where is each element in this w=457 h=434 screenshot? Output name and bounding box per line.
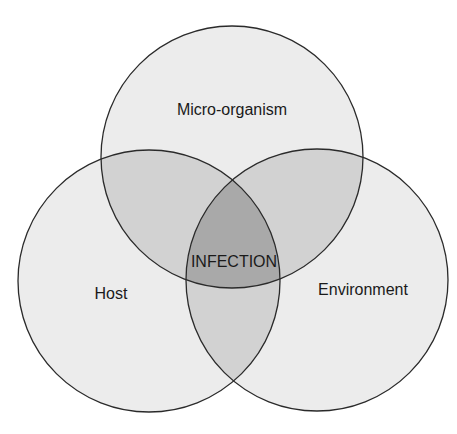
label-microorganism: Micro-organism — [177, 101, 287, 118]
venn-diagram: Micro-organism Host Environment INFECTIO… — [0, 0, 457, 434]
label-host: Host — [95, 285, 128, 302]
label-infection: INFECTION — [191, 253, 277, 270]
label-environment: Environment — [318, 281, 408, 298]
